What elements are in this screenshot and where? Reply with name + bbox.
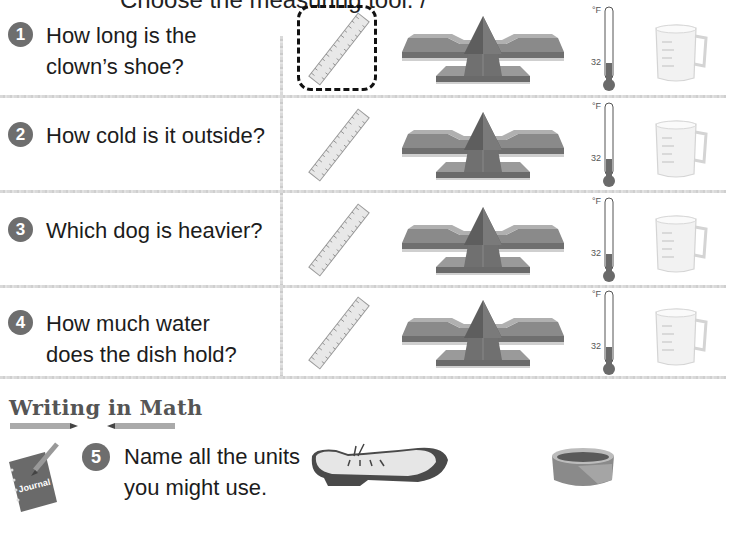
question-number-badge: 5 [82, 443, 110, 471]
thermometer-icon[interactable]: °F 32 [592, 101, 622, 189]
writing-in-math-heading: Writing in Math [9, 395, 203, 420]
column-divider [280, 36, 283, 376]
thermometer-unit: °F [592, 289, 601, 299]
balance-scale-icon[interactable] [402, 205, 564, 275]
question-number-badge: 1 [8, 22, 33, 47]
question-line: How much water [46, 308, 237, 339]
thermometer-icon[interactable]: °F 32 [592, 196, 622, 284]
pencils-underline-icon [10, 421, 175, 431]
question-number-badge: 3 [8, 217, 33, 242]
clown-shoe-image [308, 438, 448, 490]
question-4: 4 How much water does the dish hold? [8, 308, 237, 370]
question-3: 3 Which dog is heavier? [8, 215, 262, 246]
dog-bowl-image [548, 444, 618, 490]
question-text: How long is the clown’s shoe? [46, 20, 196, 82]
balance-scale-icon[interactable] [402, 14, 564, 84]
clipped-instructions: Choose the measuring tool. / [120, 0, 427, 14]
question-1: 1 How long is the clown’s shoe? [8, 20, 196, 82]
thermometer-unit: °F [592, 196, 601, 206]
measuring-cup-icon[interactable] [650, 213, 710, 277]
question-line: does the dish hold? [46, 339, 237, 370]
thermometer-icon[interactable]: °F 32 [592, 289, 622, 377]
row-divider [0, 95, 726, 98]
ruler-icon[interactable] [308, 108, 370, 182]
question-number-badge: 4 [8, 310, 33, 335]
thermometer-mark: 32 [591, 153, 601, 163]
question-text: How cold is it outside? [46, 120, 265, 151]
measuring-cup-icon[interactable] [650, 22, 710, 86]
balance-scale-icon[interactable] [402, 298, 564, 368]
question-line: Which dog is heavier? [46, 215, 262, 246]
question-line: How cold is it outside? [46, 120, 265, 151]
measuring-cup-icon[interactable] [650, 118, 710, 182]
question-2: 2 How cold is it outside? [8, 120, 265, 151]
thermometer-mark: 32 [591, 57, 601, 67]
question-line: Name all the units [124, 441, 300, 472]
row-divider [0, 190, 726, 193]
question-number-badge: 2 [8, 122, 33, 147]
balance-scale-icon[interactable] [402, 110, 564, 180]
ruler-icon[interactable] [308, 296, 370, 370]
thermometer-mark: 32 [591, 248, 601, 258]
ruler-icon[interactable] [308, 12, 370, 86]
question-text: Name all the units you might use. [124, 441, 300, 503]
question-5: 5 Name all the units you might use. [82, 441, 300, 503]
journal-icon: Journal [5, 440, 67, 514]
measuring-cup-icon[interactable] [650, 306, 710, 370]
thermometer-icon[interactable]: °F 32 [592, 5, 622, 93]
thermometer-unit: °F [592, 101, 601, 111]
question-text: How much water does the dish hold? [46, 308, 237, 370]
question-line: clown’s shoe? [46, 51, 196, 82]
ruler-icon[interactable] [308, 203, 370, 277]
question-text: Which dog is heavier? [46, 215, 262, 246]
row-divider [0, 285, 726, 288]
thermometer-unit: °F [592, 5, 601, 15]
thermometer-mark: 32 [591, 341, 601, 351]
question-line: How long is the [46, 20, 196, 51]
question-line: you might use. [124, 472, 300, 503]
